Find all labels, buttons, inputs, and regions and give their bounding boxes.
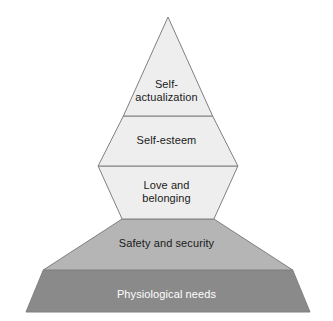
pyramid-tier-love-and-belonging[interactable] [98, 166, 238, 219]
pyramid-tier-safety-and-security[interactable] [43, 219, 292, 270]
pyramid-tier-physiological-needs[interactable] [26, 270, 310, 312]
maslow-pyramid-diagram: Self- actualization Self-esteem Love and… [0, 0, 333, 321]
pyramid-tier-self-actualization[interactable] [123, 17, 212, 116]
pyramid-tier-self-esteem[interactable] [98, 116, 238, 166]
pyramid-graphic [0, 0, 333, 321]
